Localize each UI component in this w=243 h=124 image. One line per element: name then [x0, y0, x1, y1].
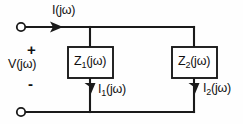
impedance-1-label: Z1(jω): [74, 55, 106, 70]
positive-terminal-circle: [17, 23, 25, 31]
total-current-label: I(jω): [52, 4, 75, 17]
impedance-2-label: Z2(jω): [178, 55, 210, 70]
branch-2-current-arrow-icon: [189, 83, 200, 96]
branch-1-current-arrow-icon: [85, 83, 96, 96]
polarity-plus-label: +: [27, 42, 36, 57]
branch-1-current-label: I1(jω): [98, 83, 126, 98]
circuit-diagram: I(jω) + V(jω) - Z1(jω) Z2(jω) I1(jω) I2(…: [0, 0, 243, 124]
branch-2-current-label: I2(jω): [203, 82, 231, 97]
polarity-minus-label: -: [28, 76, 33, 91]
source-voltage-label: V(jω): [8, 58, 36, 71]
negative-terminal-circle: [17, 108, 25, 116]
